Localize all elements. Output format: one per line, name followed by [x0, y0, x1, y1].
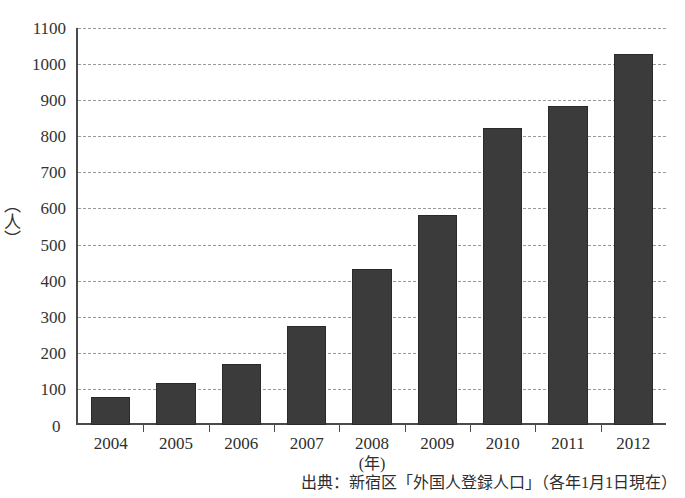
x-axis-tick-label: 2008: [355, 434, 389, 454]
y-axis-zero-label: 0: [52, 418, 61, 435]
y-axis-tick-label: 700: [4, 164, 66, 181]
y-axis-tick-label: 800: [4, 128, 66, 145]
bar[interactable]: [418, 215, 457, 425]
x-axis-tick: [470, 425, 471, 432]
x-axis-tick-label: 2004: [94, 434, 128, 454]
y-axis-tick-label: 900: [4, 92, 66, 109]
x-axis-tick: [601, 425, 602, 432]
bar-slot: [418, 28, 457, 425]
y-axis-tick-label: 300: [4, 308, 66, 325]
x-axis-tick-label: 2007: [290, 434, 324, 454]
bar[interactable]: [91, 397, 130, 425]
x-axis-tick: [535, 425, 536, 432]
x-axis-tick: [143, 425, 144, 432]
bar[interactable]: [222, 364, 261, 425]
bar[interactable]: [548, 106, 587, 425]
x-axis-tick-label: 2005: [159, 434, 193, 454]
y-axis-tick-label: 400: [4, 272, 66, 289]
bar[interactable]: [287, 326, 326, 425]
bar[interactable]: [614, 54, 653, 425]
bar[interactable]: [483, 128, 522, 425]
y-axis-tick-labels: 10020030040050060070080090010001100: [0, 28, 70, 425]
bar-slot: [352, 28, 391, 425]
x-axis-tick-label: 2009: [420, 434, 454, 454]
x-axis-tick: [209, 425, 210, 432]
bar-slot: [614, 28, 653, 425]
x-axis-ticks: [78, 425, 666, 432]
bar[interactable]: [156, 383, 195, 425]
y-axis-tick-label: 100: [4, 380, 66, 397]
x-axis-tick-label: 2010: [486, 434, 520, 454]
bar-slot: [287, 28, 326, 425]
x-axis-caption: (年): [359, 456, 386, 472]
bar-chart: （人） 10020030040050060070080090010001100 …: [0, 0, 685, 498]
x-axis-tick-label: 2006: [224, 434, 258, 454]
y-axis-tick-label: 200: [4, 344, 66, 361]
bar-slot: [548, 28, 587, 425]
source-note: 出典：新宿区「外国人登録人口」（各年1月1日現在）: [301, 473, 677, 492]
x-axis-tick: [274, 425, 275, 432]
bar[interactable]: [352, 269, 391, 425]
y-axis-tick-label: 500: [4, 236, 66, 253]
bar-slot: [483, 28, 522, 425]
x-axis-tick: [405, 425, 406, 432]
bar-series: [78, 28, 666, 425]
x-axis-tick-label: 2012: [616, 434, 650, 454]
y-axis-tick-label: 1100: [4, 20, 66, 37]
bar-slot: [156, 28, 195, 425]
bar-slot: [222, 28, 261, 425]
y-axis-tick-label: 600: [4, 200, 66, 217]
y-axis-tick-label: 1000: [4, 56, 66, 73]
bar-slot: [91, 28, 130, 425]
x-axis-tick: [339, 425, 340, 432]
x-axis-tick-label: 2011: [551, 434, 584, 454]
